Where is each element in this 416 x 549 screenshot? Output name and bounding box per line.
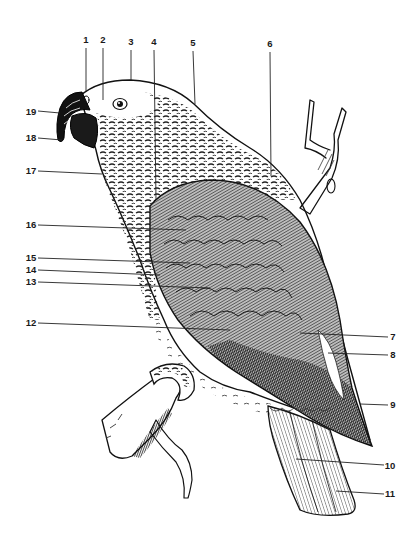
label-18: 18: [26, 132, 62, 143]
label-number-5: 5: [190, 37, 196, 48]
label-5: 5: [190, 37, 196, 104]
label-number-14: 14: [26, 264, 37, 275]
label-number-13: 13: [26, 276, 37, 287]
label-number-11: 11: [385, 488, 396, 499]
label-9: 9: [360, 399, 396, 410]
leader-line-9: [360, 404, 388, 405]
label-17: 17: [26, 165, 102, 176]
label-number-17: 17: [26, 165, 37, 176]
upper-branch: [300, 100, 346, 214]
label-6: 6: [267, 38, 272, 176]
label-number-6: 6: [267, 38, 272, 49]
label-1: 1: [83, 34, 89, 92]
leader-line-19: [38, 111, 60, 113]
label-number-3: 3: [128, 36, 133, 47]
label-number-10: 10: [385, 460, 396, 471]
label-3: 3: [128, 36, 133, 80]
leader-line-5: [193, 51, 195, 104]
label-number-15: 15: [26, 252, 37, 263]
leader-line-6: [270, 52, 271, 176]
label-number-1: 1: [83, 34, 89, 45]
lower-branch: [102, 372, 192, 498]
foot: [150, 364, 194, 400]
parrot-anatomy-diagram: 12345678910111213141516171819: [0, 0, 416, 549]
label-number-8: 8: [390, 349, 395, 360]
label-number-18: 18: [26, 132, 37, 143]
label-number-2: 2: [100, 34, 105, 45]
label-number-9: 9: [390, 399, 395, 410]
label-number-12: 12: [26, 317, 37, 328]
label-number-4: 4: [151, 36, 157, 47]
leader-line-17: [38, 171, 102, 174]
label-number-19: 19: [26, 106, 37, 117]
label-number-7: 7: [390, 331, 395, 342]
label-19: 19: [26, 106, 60, 117]
label-number-16: 16: [26, 219, 37, 230]
